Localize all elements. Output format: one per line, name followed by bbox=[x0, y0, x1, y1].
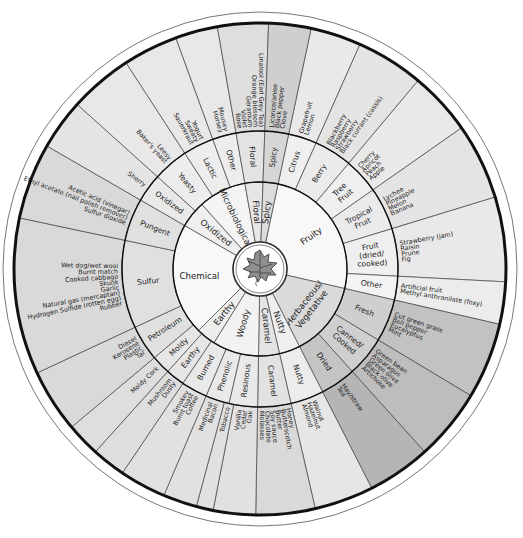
aroma-descriptor: Oak bbox=[245, 410, 254, 423]
inner-category-label: Chemical bbox=[180, 271, 220, 281]
aroma-descriptor: Molasses bbox=[258, 411, 266, 441]
center-medallion bbox=[233, 242, 287, 296]
middle-category-label: cooked) bbox=[357, 258, 387, 268]
aroma-wheel-svg: GrapefruitLemonBlackberryRaspberryStrawb… bbox=[0, 0, 523, 538]
aroma-wheel: GrapefruitLemonBlackberryRaspberryStrawb… bbox=[0, 0, 523, 538]
middle-category-label: Floral bbox=[247, 146, 257, 168]
aroma-descriptor: Fig bbox=[401, 255, 411, 264]
